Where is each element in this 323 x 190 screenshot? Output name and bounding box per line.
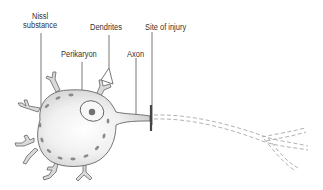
nucleolus [89,109,95,115]
label-dendrites: Dendrites [90,23,122,32]
label-perikaryon: Perikaryon [61,50,97,59]
degenerating-axon [154,115,308,170]
label-axon: Axon [127,50,144,59]
nissl-line2: substance [19,21,61,30]
label-site-of-injury: Site of injury [145,23,186,32]
label-nissl-substance: Nissl substance [19,12,61,30]
